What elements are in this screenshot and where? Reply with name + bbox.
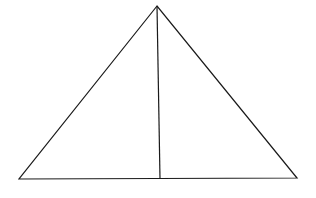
diagram-svg [0,0,316,198]
altitude-line [157,6,160,179]
triangle-diagram [0,0,316,198]
